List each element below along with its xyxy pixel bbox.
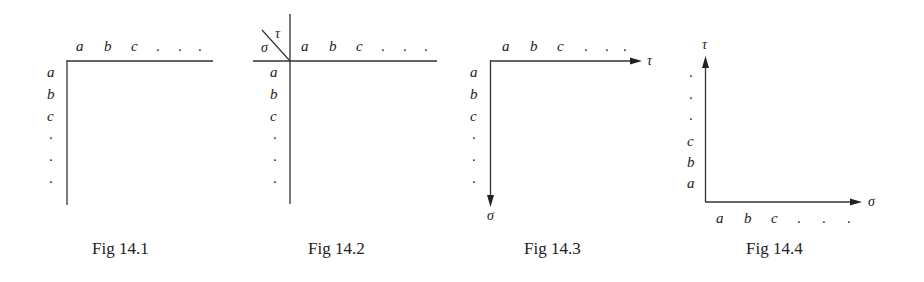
corner-label-tau: τ xyxy=(275,27,280,41)
column-ellipsis-dot: . xyxy=(584,39,588,54)
column-ellipsis-dot: . xyxy=(797,211,801,226)
column-ellipsis-dot: . xyxy=(424,39,428,54)
row-label-b: b xyxy=(687,155,695,170)
figure-14-4: τ . . . c b a σ a b c . . . Fig 14.4 xyxy=(680,0,924,282)
arrow-right-icon xyxy=(850,199,862,206)
column-label-b: b xyxy=(744,211,752,226)
row-ellipsis-dot: . xyxy=(689,87,693,102)
row-label-c: c xyxy=(47,109,54,124)
arrow-down-icon xyxy=(487,195,494,207)
column-label-b: b xyxy=(104,39,112,54)
column-ellipsis-dot: . xyxy=(605,39,609,54)
figure-14-2: τ σ a b c . . . a b c . . . Fig 14.2 xyxy=(230,0,450,282)
column-label-b: b xyxy=(329,39,337,54)
arrow-up-icon xyxy=(702,56,709,68)
column-label-c: c xyxy=(356,39,363,54)
column-ellipsis-dot: . xyxy=(403,39,407,54)
axis-label-tau: τ xyxy=(647,54,652,68)
row-ellipsis-dot: . xyxy=(49,149,53,164)
column-label-a: a xyxy=(76,39,84,54)
corner-label-sigma: σ xyxy=(261,41,268,55)
figure-14-3: a b c . . . τ a b c . . . σ Fig 14.3 xyxy=(450,0,680,282)
row-ellipsis-dot: . xyxy=(689,65,693,80)
row-label-a: a xyxy=(270,65,278,80)
column-ellipsis-dot: . xyxy=(847,211,851,226)
column-ellipsis-dot: . xyxy=(381,39,385,54)
row-label-b: b xyxy=(270,87,278,102)
row-ellipsis-dot: . xyxy=(472,149,476,164)
column-ellipsis-dot: . xyxy=(822,211,826,226)
figure-caption: Fig 14.3 xyxy=(524,240,581,257)
row-ellipsis-dot: . xyxy=(273,149,277,164)
row-ellipsis-dot: . xyxy=(689,108,693,123)
row-ellipsis-dot: . xyxy=(273,127,277,142)
column-ellipsis-dot: . xyxy=(623,39,627,54)
figure-caption: Fig 14.2 xyxy=(308,240,365,257)
row-ellipsis-dot: . xyxy=(472,127,476,142)
row-label-a: a xyxy=(47,65,55,80)
column-label-b: b xyxy=(530,39,538,54)
column-label-c: c xyxy=(131,39,138,54)
axis-label-sigma: σ xyxy=(487,209,494,223)
row-ellipsis-dot: . xyxy=(49,127,53,142)
row-ellipsis-dot: . xyxy=(49,171,53,186)
row-label-a: a xyxy=(687,176,695,191)
row-label-c: c xyxy=(470,109,477,124)
column-label-a: a xyxy=(716,211,724,226)
row-ellipsis-dot: . xyxy=(472,171,476,186)
column-ellipsis-dot: . xyxy=(178,39,182,54)
column-label-a: a xyxy=(502,39,510,54)
row-ellipsis-dot: . xyxy=(273,171,277,186)
axis-label-sigma: σ xyxy=(868,195,875,209)
column-label-a: a xyxy=(301,39,309,54)
figure-caption: Fig 14.1 xyxy=(92,240,149,257)
row-label-a: a xyxy=(470,65,478,80)
row-label-b: b xyxy=(470,87,478,102)
row-label-c: c xyxy=(687,134,694,149)
column-label-c: c xyxy=(557,39,564,54)
row-label-b: b xyxy=(47,87,55,102)
column-ellipsis-dot: . xyxy=(198,39,202,54)
column-label-c: c xyxy=(771,211,778,226)
axis-label-tau: τ xyxy=(702,38,707,52)
arrow-right-icon xyxy=(630,58,642,65)
figure-14-1: a b c . . . a b c . . . Fig 14.1 xyxy=(0,0,230,282)
figure-caption: Fig 14.4 xyxy=(746,240,803,257)
column-ellipsis-dot: . xyxy=(156,39,160,54)
row-label-c: c xyxy=(270,109,277,124)
